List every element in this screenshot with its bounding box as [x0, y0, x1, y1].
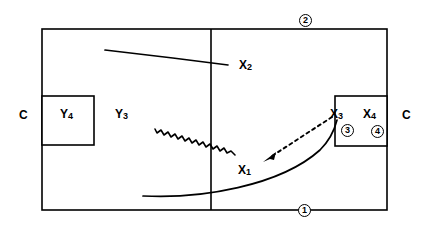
label-x2-base: X — [239, 58, 247, 72]
label-c-left: C — [19, 109, 28, 121]
diagram-canvas: X2 X1 X3 X4 Y3 Y4 C C 1 2 3 4 — [0, 0, 436, 227]
label-x2: X2 — [239, 59, 252, 71]
label-y4-subscript: 4 — [68, 111, 73, 121]
label-y3-base: Y — [115, 107, 123, 121]
label-x4-subscript: 4 — [371, 111, 376, 121]
x3-x4-compartment-rect — [335, 96, 387, 146]
circled-marker-2: 2 — [299, 14, 312, 27]
label-y4: Y4 — [60, 108, 73, 120]
label-x4: X4 — [363, 108, 376, 120]
label-x3-subscript: 3 — [338, 111, 343, 121]
label-y3-subscript: 3 — [123, 111, 128, 121]
label-x1-subscript: 1 — [246, 167, 251, 177]
label-x3-base: X — [330, 107, 338, 121]
dashed-arrow-shaft — [272, 117, 332, 156]
dashed-arrow-head — [263, 152, 276, 162]
label-x4-base: X — [363, 107, 371, 121]
circled-marker-1: 1 — [298, 204, 311, 217]
label-x1-base: X — [238, 163, 246, 177]
circled-marker-4: 4 — [371, 125, 384, 138]
label-y4-base: Y — [60, 107, 68, 121]
label-c-right: C — [402, 109, 411, 121]
label-x2-subscript: 2 — [247, 62, 252, 72]
label-y3: Y3 — [115, 108, 128, 120]
smooth-curve-upper — [105, 50, 228, 65]
circled-marker-3: 3 — [341, 124, 354, 137]
smooth-curve-lower — [143, 120, 337, 196]
wavy-line-middle — [155, 129, 235, 155]
label-x3: X3 — [330, 108, 343, 120]
label-x1: X1 — [238, 164, 251, 176]
